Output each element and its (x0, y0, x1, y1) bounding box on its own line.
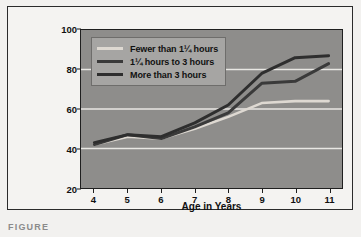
x-tick-mark-10 (296, 189, 297, 193)
x-tick-mark-6 (161, 189, 162, 193)
x-axis-title: Age in Years (80, 201, 343, 212)
x-tick-mark-8 (228, 189, 229, 193)
legend-item-2: More than 3 hours (97, 68, 218, 81)
legend-item-1: 1¼ hours to 3 hours (97, 55, 218, 68)
chart-legend: Fewer than 1¼ hours 1¼ hours to 3 hours … (91, 37, 226, 86)
y-tick-label-80: 80 (55, 64, 77, 75)
figure-root: Mean Body Fat Index (mm of fat at five b… (0, 0, 361, 237)
legend-swatch-icon-0 (97, 47, 123, 50)
y-tick-label-20: 20 (55, 184, 77, 195)
figure-caption: FIGURE (8, 222, 128, 234)
y-tick-label-100: 100 (55, 24, 77, 35)
x-tick-mark-11 (330, 189, 331, 193)
legend-item-0: Fewer than 1¼ hours (97, 42, 218, 55)
y-tick-label-60: 60 (55, 104, 77, 115)
x-tick-mark-4 (93, 189, 94, 193)
series-line-fewer-than-1-25-hours (94, 101, 328, 144)
x-tick-mark-9 (262, 189, 263, 193)
x-tick-mark-5 (127, 189, 128, 193)
y-tick-label-40: 40 (55, 144, 77, 155)
plot-area: Fewer than 1¼ hours 1¼ hours to 3 hours … (80, 29, 343, 189)
legend-swatch-icon-1 (97, 60, 123, 63)
legend-label-0: Fewer than 1¼ hours (130, 44, 218, 54)
figure-frame: Mean Body Fat Index (mm of fat at five b… (7, 6, 353, 210)
x-tick-mark-7 (195, 189, 196, 193)
legend-swatch-icon-2 (97, 73, 123, 76)
legend-label-2: More than 3 hours (130, 70, 206, 80)
legend-label-1: 1¼ hours to 3 hours (130, 57, 214, 67)
y-axis-title: Mean Body Fat Index (mm of fat at five b… (0, 0, 4, 10)
y-axis-ticks: 100 80 60 40 20 (52, 29, 77, 189)
